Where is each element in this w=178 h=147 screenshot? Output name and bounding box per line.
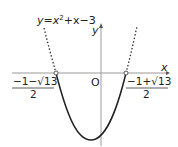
y-axis-arrow-icon	[99, 23, 103, 28]
root-left-numerator: −1−√13	[13, 75, 57, 87]
curve-dotted-right	[126, 26, 137, 73]
root-right-denominator: 2	[143, 88, 150, 100]
function-label: y=x2+x−3	[36, 14, 96, 27]
origin-label: O	[91, 76, 100, 89]
root-right-numerator: −1+√13	[127, 75, 171, 87]
root-left-denominator: 2	[30, 88, 37, 100]
y-axis-label: y	[91, 24, 99, 37]
curve-dotted-left	[44, 28, 56, 73]
parabola-graph: y=x2+x−3 y x O −1−√13 2 −1+√13 2	[0, 0, 178, 147]
x-axis-label: x	[160, 61, 168, 74]
